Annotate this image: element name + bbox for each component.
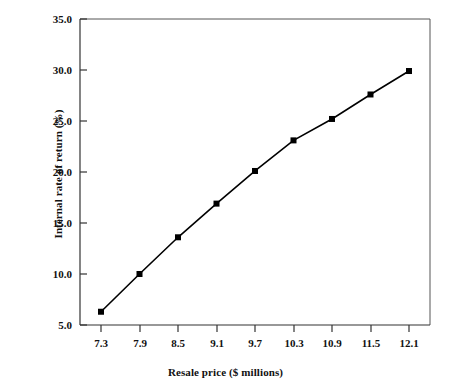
data-point-marker xyxy=(368,91,374,97)
y-tick-label-5: 5.0 xyxy=(32,320,72,331)
x-axis-title: Resale price ($ millions) xyxy=(0,366,451,378)
data-point-marker xyxy=(214,201,220,207)
x-tick-label-12-1: 12.1 xyxy=(387,338,431,349)
data-point-marker xyxy=(329,116,335,122)
x-tick-label-10-9: 10.9 xyxy=(310,338,354,349)
x-tick-label-8-5: 8.5 xyxy=(156,338,200,349)
data-point-marker xyxy=(252,168,258,174)
y-axis-ticks xyxy=(80,19,87,325)
data-point-marker xyxy=(98,309,104,315)
chart-container: 35.0 30.0 25.0 20.0 15.0 10.0 5.0 7.3 7.… xyxy=(0,0,451,390)
data-point-marker xyxy=(291,137,297,143)
y-axis-title: Internal rate of return (%) xyxy=(52,34,64,314)
chart-plot-svg xyxy=(0,0,451,390)
data-series-line xyxy=(101,71,409,312)
data-point-marker xyxy=(175,234,181,240)
data-point-marker xyxy=(137,271,143,277)
x-tick-label-7-3: 7.3 xyxy=(79,338,123,349)
x-tick-label-9-7: 9.7 xyxy=(233,338,277,349)
x-axis-ticks xyxy=(101,325,409,332)
y-tick-label-35: 35.0 xyxy=(32,14,72,25)
data-point-marker xyxy=(406,68,412,74)
data-series-markers xyxy=(98,68,412,315)
